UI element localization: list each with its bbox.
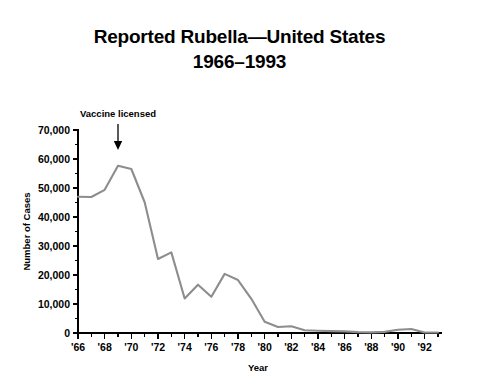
x-tick-label: '86 xyxy=(338,341,352,353)
x-tick-label: '76 xyxy=(204,341,218,353)
y-axis-title: Number of Cases xyxy=(21,192,32,270)
x-tick-label: '74 xyxy=(178,341,192,353)
x-tick-label: '70 xyxy=(124,341,138,353)
chart-figure: Reported Rubella—United States 1966–1993… xyxy=(0,0,479,382)
chart-title: Reported Rubella—United States 1966–1993 xyxy=(0,24,479,74)
y-tick-label: 20,000 xyxy=(38,269,70,281)
y-tick-label: 10,000 xyxy=(38,298,70,310)
vaccine-licensed-annotation: Vaccine licensed xyxy=(80,108,156,150)
data-series-line xyxy=(78,166,438,333)
x-axis-title: Year xyxy=(248,362,268,373)
chart-title-line1: Reported Rubella—United States xyxy=(94,26,386,47)
y-tick-label: 30,000 xyxy=(38,240,70,252)
y-tick-label: 60,000 xyxy=(38,153,70,165)
x-axis-tick-labels: '66'68'70'72'74'76'78'80'82'84'86'88'90'… xyxy=(71,341,432,353)
annotation-arrow-head xyxy=(114,141,122,150)
x-tick-label: '80 xyxy=(258,341,272,353)
annotation-label: Vaccine licensed xyxy=(80,108,156,119)
x-tick-label: '84 xyxy=(311,341,325,353)
y-tick-label: 40,000 xyxy=(38,211,70,223)
x-tick-label: '72 xyxy=(151,341,165,353)
x-tick-label: '90 xyxy=(391,341,405,353)
chart-title-line2: 1966–1993 xyxy=(0,49,479,74)
x-tick-label: '66 xyxy=(71,341,85,353)
x-tick-label: '92 xyxy=(418,341,432,353)
x-tick-label: '82 xyxy=(284,341,298,353)
x-tick-label: '68 xyxy=(98,341,112,353)
y-tick-label: 70,000 xyxy=(38,124,70,136)
y-tick-label: 0 xyxy=(64,327,70,339)
x-tick-label: '88 xyxy=(364,341,378,353)
y-axis-tick-labels: 010,00020,00030,00040,00050,00060,00070,… xyxy=(38,124,70,339)
y-tick-label: 50,000 xyxy=(38,182,70,194)
x-tick-label: '78 xyxy=(231,341,245,353)
